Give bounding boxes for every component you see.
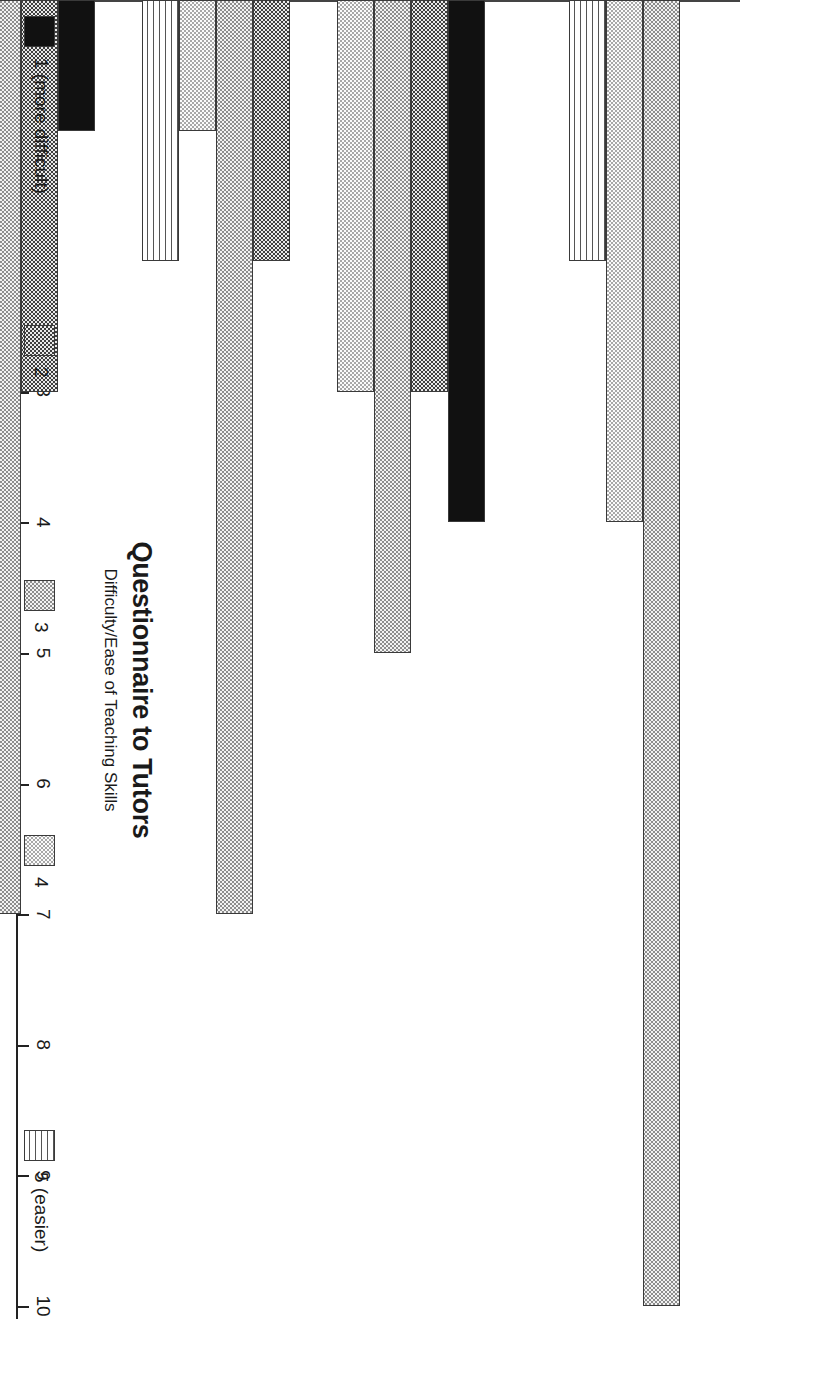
legend-label: 4 [30, 877, 52, 888]
legend-swatch [24, 16, 55, 47]
value-tick-label: 10 [32, 1286, 54, 1326]
bar [643, 0, 680, 1306]
bar [374, 0, 411, 653]
value-tick-label: 8 [32, 1025, 54, 1065]
bar [179, 0, 216, 131]
bar [216, 0, 253, 914]
rotated-figure-container: Questionnaire to Tutors Difficulty/Ease … [0, 0, 817, 1374]
bar [253, 0, 290, 261]
value-tick-label: 7 [32, 894, 54, 934]
value-tick [18, 1306, 29, 1308]
legend-swatch [24, 325, 55, 356]
plot-area: 012345678910 INTERVIEWINGNEGOTIATIONADVO… [0, 0, 760, 1374]
bar [58, 0, 95, 131]
value-tick-label: 4 [32, 502, 54, 542]
value-tick [18, 1045, 29, 1047]
bar [0, 0, 21, 914]
bar [142, 0, 179, 261]
legend-label: 3 [30, 622, 52, 633]
value-tick-label: 6 [32, 764, 54, 804]
legend-label: 5 (easier) [30, 1172, 52, 1252]
bar [337, 0, 374, 392]
bar [569, 0, 606, 261]
value-tick [18, 914, 29, 916]
legend-swatch [24, 1130, 55, 1161]
chart-figure: Questionnaire to Tutors Difficulty/Ease … [0, 0, 817, 1374]
legend-swatch [24, 835, 55, 866]
bar [606, 0, 643, 522]
bar [411, 0, 448, 392]
legend-label: 2 [30, 367, 52, 378]
legend-label: 1 (more difficult) [30, 58, 52, 194]
legend-swatch [24, 580, 55, 611]
value-tick-label: 5 [32, 633, 54, 673]
value-tick [18, 1175, 29, 1177]
bar [448, 0, 485, 522]
